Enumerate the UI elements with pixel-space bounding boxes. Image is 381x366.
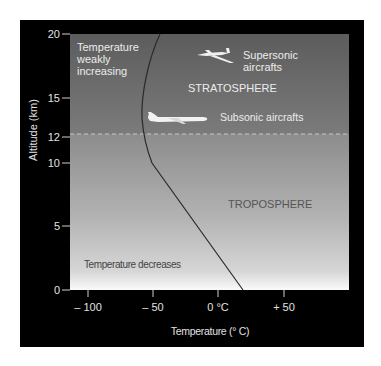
stratosphere-label: STRATOSPHERE bbox=[188, 82, 277, 94]
x-tick-plus50: + 50 bbox=[273, 301, 295, 313]
y-tick-0: 0 bbox=[54, 284, 60, 296]
troposphere-label: TROPOSPHERE bbox=[228, 198, 312, 210]
x-axis-label: Temperature (° C) bbox=[171, 325, 249, 337]
y-tick-15: 15 bbox=[48, 92, 60, 104]
y-tick-20: 20 bbox=[48, 28, 60, 40]
strat-note-line-3: increasing bbox=[77, 65, 127, 77]
supersonic-line-2: aircrafts bbox=[243, 61, 283, 73]
y-tick-10: 10 bbox=[48, 157, 60, 169]
supersonic-line-1: Supersonic bbox=[243, 49, 299, 61]
y-axis bbox=[62, 34, 70, 290]
troposphere-note: Temperature decreases bbox=[84, 259, 181, 270]
y-axis-label: Altitude (km) bbox=[27, 99, 39, 161]
atmosphere-chart: 20 15 12 10 5 0 Altitude (km) – 100 – 50… bbox=[0, 0, 381, 366]
x-tick-minus100: – 100 bbox=[74, 301, 102, 313]
x-tick-0: 0 °C bbox=[207, 301, 229, 313]
x-axis bbox=[88, 290, 284, 297]
y-tick-12: 12 bbox=[48, 131, 60, 143]
y-tick-5: 5 bbox=[54, 220, 60, 232]
strat-note-line-1: Temperature bbox=[77, 41, 139, 53]
x-tick-minus50: – 50 bbox=[142, 301, 163, 313]
subsonic-label: Subsonic aircrafts bbox=[220, 111, 303, 123]
strat-note-line-2: weakly bbox=[76, 53, 111, 65]
